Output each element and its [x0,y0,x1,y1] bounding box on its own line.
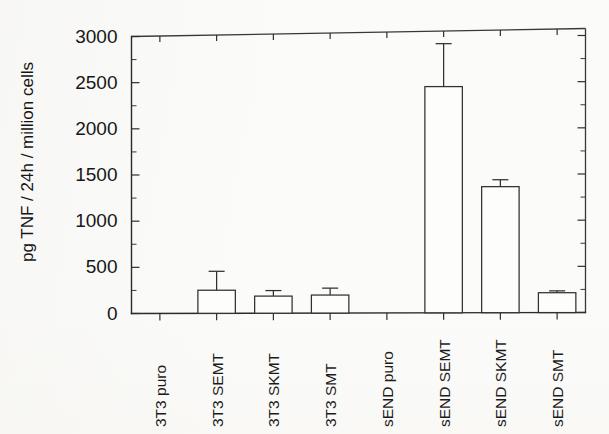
y-axis-title: pg TNF / 24h / million cells [18,62,37,262]
bar [255,296,292,313]
y-tick-label: 500 [86,256,118,277]
x-tick-label: 3T3 puro [152,365,169,427]
y-tick-label: 1000 [75,210,117,231]
y-tick-label: 2500 [75,72,117,93]
bar [198,290,235,313]
x-tick-label: 3T3 SKMT [265,352,282,427]
bar [482,187,519,313]
y-axis-ticks [132,37,140,314]
y-tick-label: 3000 [75,26,117,47]
bar [311,295,348,313]
y-tick-label: 0 [107,303,118,324]
bar [538,293,575,313]
x-tick-label: 3T3 SMT [322,363,339,427]
x-tick-label: sEND SKMT [492,339,509,427]
x-tick-label: 3T3 SEMT [209,352,226,427]
bar-chart: 050010001500200025003000 3T3 puro3T3 SEM… [0,0,609,434]
y-tick-label: 2000 [75,118,117,139]
y-axis-ticks-right [578,36,586,313]
bar [425,87,462,313]
y-tick-label: 1500 [75,164,117,185]
figure-panel: 050010001500200025003000 3T3 puro3T3 SEM… [0,0,609,434]
x-tick-label: sEND puro [379,351,396,427]
x-axis-tick-labels: 3T3 puro3T3 SEMT3T3 SKMT3T3 SMTsEND puro… [152,339,566,427]
bar-series [198,87,576,314]
x-tick-label: sEND SMT [549,349,566,427]
x-tick-label: sEND SEMT [436,339,453,427]
y-axis-tick-labels: 050010001500200025003000 [75,26,117,324]
